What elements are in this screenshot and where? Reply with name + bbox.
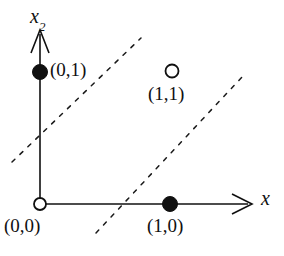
point-label-0-1: (0,1) xyxy=(50,60,86,79)
point-marker-1-0[interactable] xyxy=(163,197,178,212)
figure-root: x2 x (0,0) (0,1) (1,0) (1,1) xyxy=(0,0,284,256)
point-label-1-1: (1,1) xyxy=(148,84,184,103)
vertical-axis-label: x2 xyxy=(30,6,45,30)
axes-group xyxy=(31,30,252,214)
vertical-axis-label-base: x xyxy=(30,5,39,27)
horizontal-axis-label: x xyxy=(261,188,270,208)
vertical-axis-label-subscript: 2 xyxy=(39,19,46,34)
point-marker-0-1[interactable] xyxy=(33,65,48,80)
point-label-1-0: (1,0) xyxy=(147,216,183,235)
point-marker-1-1[interactable] xyxy=(166,65,179,78)
plot-canvas xyxy=(0,0,284,256)
point-marker-0-0[interactable] xyxy=(34,198,46,210)
point-label-0-0: (0,0) xyxy=(4,216,40,235)
decision-boundary-lower-line xyxy=(12,38,141,162)
